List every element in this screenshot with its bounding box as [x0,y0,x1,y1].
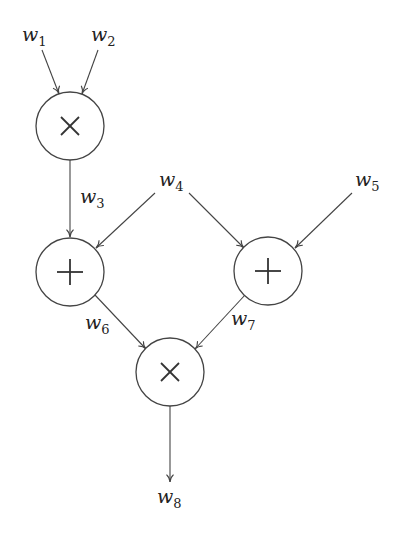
label-w6: w6 [85,311,110,337]
multiply-node-bottom [136,338,204,406]
label-w8: w8 [157,485,182,511]
edge-w4-add2 [189,193,244,248]
label-w5: w5 [355,168,380,194]
label-w7: w7 [231,307,256,333]
label-w2: w2 [91,23,116,49]
edge-w4-add1 [96,193,155,248]
edge-w2-mul1 [82,50,98,94]
edge-w1-mul1 [42,50,59,94]
label-w4: w4 [159,168,184,194]
computational-graph: w1 w2 w3 w4 w5 w6 w7 w8 [0,0,397,533]
edge-w5-add2 [295,193,352,248]
multiply-node-top [36,92,104,160]
label-w3: w3 [80,185,105,211]
label-w1: w1 [22,23,47,49]
add-node-right [234,237,302,305]
add-node-left [36,238,104,306]
